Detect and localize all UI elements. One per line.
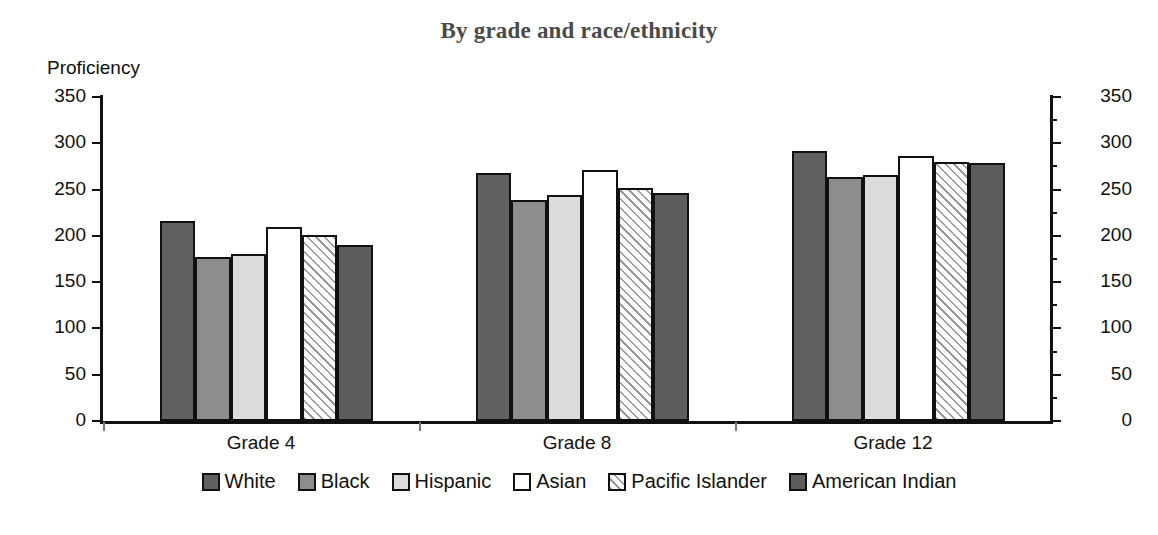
bar-hispanic-grade-12 xyxy=(863,175,899,421)
axis-tick-label: 0 xyxy=(1068,409,1132,431)
axis-tick-label: 350 xyxy=(1068,85,1132,107)
legend-label: Pacific Islander xyxy=(631,470,767,493)
chart-title: By grade and race/ethnicity xyxy=(0,18,1158,44)
legend-swatch-white-icon xyxy=(202,473,220,491)
category-separator-tick xyxy=(419,422,421,431)
chart-legend: WhiteBlackHispanicAsianPacific IslanderA… xyxy=(0,470,1158,493)
x-axis-line xyxy=(100,421,1053,424)
axis-tick xyxy=(1052,374,1061,376)
legend-swatch-black-icon xyxy=(298,473,316,491)
bar-asian-grade-4 xyxy=(266,227,302,421)
axis-tick-label: 300 xyxy=(1068,131,1132,153)
axis-tick xyxy=(92,420,101,422)
legend-item-asian[interactable]: Asian xyxy=(513,470,586,493)
bar-pacific-grade-4 xyxy=(302,235,338,421)
legend-item-white[interactable]: White xyxy=(202,470,276,493)
axis-tick-label: 200 xyxy=(1068,224,1132,246)
legend-label: White xyxy=(225,470,276,493)
bar-white-grade-12 xyxy=(792,151,828,421)
axis-tick-label: 50 xyxy=(1068,363,1132,385)
legend-swatch-pacific-icon xyxy=(608,473,626,491)
axis-tick-label: 100 xyxy=(1068,316,1132,338)
x-axis-label-grade-8: Grade 8 xyxy=(543,432,612,454)
axis-tick xyxy=(1052,96,1061,98)
x-axis-label-grade-12: Grade 12 xyxy=(853,432,932,454)
axis-tick-label: 200 xyxy=(22,224,86,246)
bar-american-grade-12 xyxy=(969,163,1005,421)
bar-hispanic-grade-4 xyxy=(231,254,267,421)
bar-white-grade-8 xyxy=(476,173,512,421)
bar-asian-grade-8 xyxy=(582,170,618,421)
bar-pacific-grade-8 xyxy=(618,188,654,421)
axis-tick-label: 350 xyxy=(22,85,86,107)
axis-tick-label: 150 xyxy=(1068,270,1132,292)
legend-label: American Indian xyxy=(812,470,957,493)
axis-tick-minor xyxy=(1052,304,1057,306)
axis-tick xyxy=(1052,235,1061,237)
legend-label: Black xyxy=(321,470,370,493)
axis-tick-minor xyxy=(1052,165,1057,167)
legend-item-pacific[interactable]: Pacific Islander xyxy=(608,470,767,493)
legend-item-black[interactable]: Black xyxy=(298,470,370,493)
category-separator-tick xyxy=(735,422,737,431)
axis-tick-label: 0 xyxy=(22,409,86,431)
axis-tick xyxy=(92,235,101,237)
legend-swatch-asian-icon xyxy=(513,473,531,491)
bar-american-grade-8 xyxy=(653,193,689,421)
axis-tick-minor xyxy=(1052,119,1057,121)
axis-tick-label: 50 xyxy=(22,363,86,385)
axis-tick xyxy=(1052,189,1061,191)
legend-item-hispanic[interactable]: Hispanic xyxy=(392,470,492,493)
axis-tick-label: 100 xyxy=(22,316,86,338)
bar-pacific-grade-12 xyxy=(934,162,970,421)
bar-asian-grade-12 xyxy=(898,156,934,421)
legend-swatch-hispanic-icon xyxy=(392,473,410,491)
axis-tick xyxy=(92,96,101,98)
legend-label: Asian xyxy=(536,470,586,493)
axis-tick-minor xyxy=(1052,212,1057,214)
axis-tick-minor xyxy=(1052,397,1057,399)
axis-tick-minor xyxy=(1052,258,1057,260)
bar-black-grade-4 xyxy=(195,257,231,421)
axis-tick-label: 250 xyxy=(1068,178,1132,200)
axis-tick xyxy=(92,281,101,283)
bar-white-grade-4 xyxy=(160,221,196,421)
axis-tick-label: 300 xyxy=(22,131,86,153)
axis-tick xyxy=(92,189,101,191)
axis-tick xyxy=(1052,327,1061,329)
axis-tick-label: 150 xyxy=(22,270,86,292)
legend-item-american[interactable]: American Indian xyxy=(789,470,957,493)
axis-tick xyxy=(92,142,101,144)
axis-tick xyxy=(1052,142,1061,144)
bar-hispanic-grade-8 xyxy=(547,195,583,421)
bar-black-grade-12 xyxy=(827,177,863,421)
y-axis-caption: Proficiency xyxy=(47,57,140,79)
axis-tick xyxy=(92,374,101,376)
bar-black-grade-8 xyxy=(511,200,547,421)
axis-tick-minor xyxy=(1052,351,1057,353)
axis-tick xyxy=(1052,281,1061,283)
bar-american-grade-4 xyxy=(337,245,373,421)
category-separator-tick xyxy=(103,422,105,431)
axis-tick xyxy=(92,327,101,329)
x-axis-label-grade-4: Grade 4 xyxy=(227,432,296,454)
legend-swatch-american-icon xyxy=(789,473,807,491)
legend-label: Hispanic xyxy=(415,470,492,493)
axis-tick-label: 250 xyxy=(22,178,86,200)
axis-tick xyxy=(1052,420,1061,422)
chart-figure: By grade and race/ethnicity Proficiency … xyxy=(0,0,1158,535)
